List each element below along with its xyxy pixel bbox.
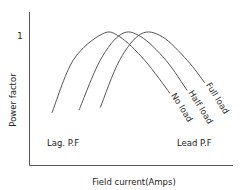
x-axis-label: Field current(Amps)	[92, 177, 176, 187]
y-axis-label: Power factor	[8, 73, 18, 127]
curves-group: No loadHalf loadFull load	[52, 32, 231, 126]
lead-pf-label: Lead P.F	[177, 138, 212, 148]
lag-pf-label: Lag. P.F	[47, 138, 79, 148]
y-tick-label: 1	[17, 31, 22, 41]
chart-svg: 1 Power factor Field current(Amps) Lag. …	[0, 0, 252, 190]
